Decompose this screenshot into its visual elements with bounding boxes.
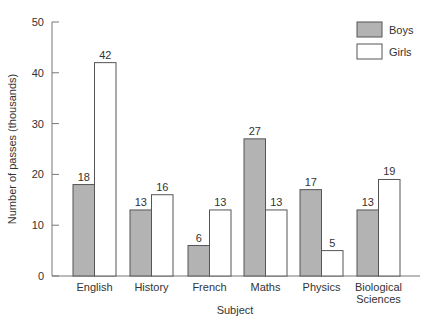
bar-value-label: 18 (78, 171, 90, 183)
legend-label: Girls (389, 46, 412, 58)
y-tick-label: 0 (38, 270, 44, 282)
y-tick-label: 40 (32, 67, 44, 79)
x-tick-label: French (192, 281, 226, 293)
bar-boys (188, 246, 210, 276)
bar-girls (210, 210, 232, 276)
x-tick-label: Physics (303, 281, 341, 293)
bar-value-label: 13 (135, 196, 147, 208)
x-tick-label: Maths (251, 281, 281, 293)
bar-value-label: 6 (196, 232, 202, 244)
legend-swatch-boys (357, 22, 382, 37)
x-tick-label: Sciences (356, 293, 401, 305)
bar-boys (244, 139, 266, 276)
bar-girls (322, 251, 344, 276)
y-tick-label: 10 (32, 219, 44, 231)
bar-girls (95, 63, 117, 276)
bar-girls (266, 210, 288, 276)
bar-value-label: 13 (362, 196, 374, 208)
bar-boys (130, 210, 152, 276)
bar-boys (357, 210, 379, 276)
y-tick-label: 20 (32, 168, 44, 180)
bar-girls (152, 195, 174, 276)
bar-chart: 01020304050 1842English1316History613Fre… (0, 0, 430, 321)
bar-boys (73, 185, 95, 276)
x-tick-label: English (76, 281, 112, 293)
bar-group: 1316History (130, 181, 173, 293)
bar-boys (300, 190, 322, 276)
bar-girls (379, 179, 401, 276)
bar-group: 2713Maths (244, 125, 287, 293)
x-tick-label: History (134, 281, 169, 293)
bar-group: 613French (188, 196, 231, 293)
bar-value-label: 27 (249, 125, 261, 137)
bar-value-label: 5 (329, 237, 335, 249)
bar-value-label: 17 (305, 176, 317, 188)
bar-group: 1319BiologicalSciences (355, 165, 402, 305)
bar-value-label: 13 (270, 196, 282, 208)
bar-group: 1842English (73, 49, 116, 293)
legend-swatch-girls (357, 44, 382, 59)
bar-value-label: 16 (156, 181, 168, 193)
bar-value-label: 19 (383, 165, 395, 177)
x-tick-label: Biological (355, 281, 402, 293)
y-tick-label: 50 (32, 16, 44, 28)
legend-label: Boys (389, 24, 414, 36)
bars: 1842English1316History613French2713Maths… (73, 49, 402, 305)
bar-group: 175Physics (300, 176, 343, 293)
bar-value-label: 42 (99, 49, 111, 61)
bar-value-label: 13 (214, 196, 226, 208)
x-axis-label: Subject (217, 304, 254, 316)
y-axis-label: Number of passes (thousands) (6, 74, 18, 224)
y-tick-label: 30 (32, 118, 44, 130)
legend: BoysGirls (357, 22, 414, 59)
